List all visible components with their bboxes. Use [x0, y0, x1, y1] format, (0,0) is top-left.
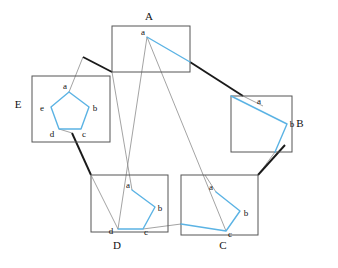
- box-A[interactable]: A a: [112, 10, 190, 72]
- box-E[interactable]: E a b c d e: [15, 76, 110, 142]
- pentagon-decomposition-figure: A a B a b C a b c D a b c: [0, 0, 338, 268]
- box-C[interactable]: C a b c: [181, 175, 258, 251]
- box-C-vertex-c-label: c: [228, 229, 232, 239]
- box-D-polygon-fragment: [118, 190, 155, 229]
- box-B-vertex-b-label: b: [290, 119, 295, 129]
- box-E-vertex-b-label: b: [93, 103, 98, 113]
- box-E-vertex-e-label: e: [40, 103, 44, 113]
- box-A-vertex-a-label: a: [141, 27, 145, 37]
- box-E-vertex-a-label: a: [63, 81, 67, 91]
- box-D-vertex-a-label: a: [126, 180, 130, 190]
- thin-connector-e-to-a: [69, 57, 83, 92]
- figure-canvas: A a B a b C a b c D a b c: [0, 0, 338, 268]
- box-E-label: E: [15, 98, 22, 110]
- box-B[interactable]: B a b: [231, 96, 304, 152]
- thick-connector-a-e: [83, 57, 112, 72]
- box-D-vertex-c-label: c: [144, 227, 148, 237]
- box-E-vertex-c-label: c: [82, 129, 86, 139]
- box-C-label: C: [219, 239, 226, 251]
- box-D-vertex-b-label: b: [158, 203, 163, 213]
- thick-connector-a-b: [190, 62, 243, 96]
- box-D[interactable]: D a b c d: [91, 175, 168, 251]
- box-D-vertex-d-label: d: [109, 226, 114, 236]
- box-A-label: A: [145, 10, 153, 22]
- box-C-vertex-a-label: a: [209, 182, 213, 192]
- box-B-vertex-a-label: a: [257, 96, 261, 106]
- box-A-rect: [112, 26, 190, 72]
- box-E-vertex-d-label: d: [50, 129, 55, 139]
- box-C-vertex-b-label: b: [244, 208, 249, 218]
- box-B-rect: [231, 96, 292, 152]
- thin-connector-a-to-c: [147, 37, 226, 231]
- box-B-label: B: [296, 117, 303, 129]
- thick-connector-group: [72, 57, 285, 175]
- box-D-edge-d-to-corner: [91, 175, 118, 229]
- thick-connector-e-d: [72, 133, 91, 175]
- box-E-polygon-full: [51, 92, 89, 129]
- box-C-polygon-fragment: [181, 192, 240, 231]
- thin-connector-d-to-a: [112, 72, 132, 190]
- box-D-label: D: [113, 239, 121, 251]
- thick-connector-b-c: [258, 145, 285, 175]
- thin-connector-d-to-c: [143, 224, 181, 229]
- box-A-polygon-fragment: [147, 37, 190, 62]
